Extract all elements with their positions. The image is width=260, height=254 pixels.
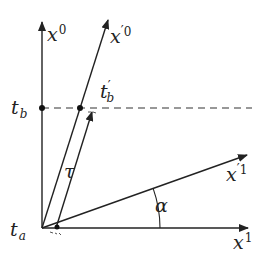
t-b-base: t: [11, 96, 19, 118]
origin-dotted-mark: [50, 232, 61, 235]
x0-prime-axis-label: x′0: [110, 24, 131, 46]
x1-prime-axis-label: x′1: [226, 162, 247, 184]
t-a-label: ta: [10, 220, 26, 242]
t-b-prime-event-dot: [77, 105, 83, 111]
x0-superscript: 0: [59, 23, 67, 37]
alpha-label: α: [155, 196, 168, 215]
x1-prime-superscript: 1: [240, 163, 248, 177]
t-a-base: t: [10, 218, 18, 240]
tau-symbol: τ: [64, 160, 75, 182]
x1-base: x: [233, 231, 244, 253]
x0-prime-superscript: 0: [124, 25, 132, 39]
t-a-subscript: a: [19, 229, 26, 243]
t-b-event-dot: [39, 105, 45, 111]
tau-label: τ: [64, 162, 75, 181]
x0-axis-label: x0: [47, 24, 66, 44]
x1-prime-base: x: [226, 163, 237, 185]
alpha-symbol: α: [155, 194, 168, 216]
t-b-subscript: b: [20, 107, 28, 121]
x0-prime-axis: [42, 20, 108, 228]
t-a-event-dot: [55, 225, 60, 230]
t-b-label: tb: [11, 98, 27, 120]
x1-axis-label: x1: [233, 232, 252, 252]
x0-base: x: [47, 23, 58, 45]
x1-superscript: 1: [245, 231, 253, 245]
x0-prime-base: x: [110, 25, 121, 47]
spacetime-diagram: x0 x′0 tb t′b τ ta α x′1 x1: [0, 0, 260, 254]
t-b-prime-subscript: b: [107, 91, 115, 105]
t-b-prime-label: t′b: [100, 79, 114, 104]
